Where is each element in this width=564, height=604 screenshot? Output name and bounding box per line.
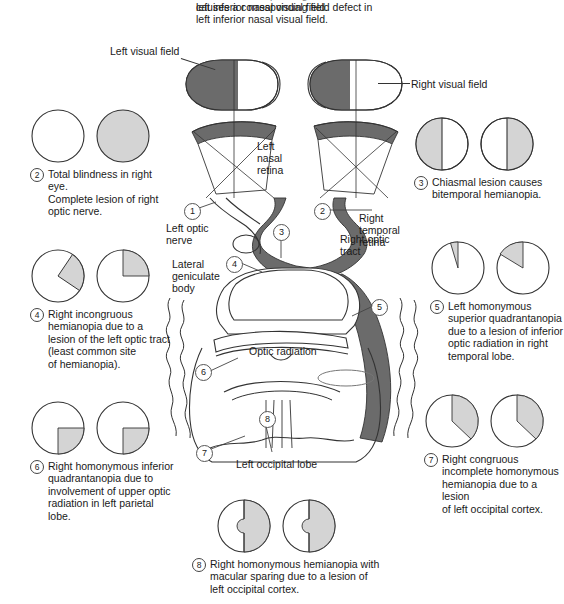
defect-2-line-0: Total blindness in right eye. [48,168,152,192]
defect-5-caption: 5 Left homonymous superior quadrantanopi… [430,300,564,362]
defect-4-line-3: (least common site [48,345,136,357]
defect-5-line-3: optic radiation in right [448,337,548,349]
defect-4-fields [30,248,170,304]
defect-item-3: 3 Chiasmal lesion causes bitemporal hemi… [414,116,560,201]
defect-2-line-1: Complete lesion of right [48,193,158,205]
defect-6-caption: 6 Right homonymous inferior quadrantanop… [30,460,176,522]
defect-item-5: 5 Left homonymous superior quadrantanopi… [430,240,564,362]
defect-6-left-field [30,400,86,456]
defect-6-right-field [95,400,151,456]
defect-3-number: 3 [414,176,428,190]
defect-6-line-3: radiation in left parietal lobe. [48,497,154,521]
defect-item-8: 8 Right homonymous hemianopia with macul… [192,498,442,595]
defect-3-fields [414,116,560,172]
defect-item-2: 2 Total blindness in right eye. Complete… [30,108,162,218]
defect-8-right-field [281,498,337,554]
defect-4-line-0: Right incongruous [48,308,133,320]
defect-7-line-0: Right congruous [442,453,518,465]
defect-5-text: Left homonymous superior quadrantanopia … [448,300,564,362]
defect-3-right-field [479,116,535,172]
defect-6-line-1: quadrantanopia due to [48,472,153,484]
defect-4-number: 4 [30,308,44,322]
defect-7-fields [424,393,564,449]
defect-4-line-4: of hemianopia). [48,358,120,370]
defect-8-number: 8 [192,558,206,572]
defect-8-line-0: Right homonymous hemianopia with [210,558,379,570]
defect-item-4: 4 Right incongruous hemianopia due to a … [30,248,170,370]
defect-item-7: 7 Right congruous incomplete homonymous … [424,393,564,515]
defect-5-line-1: superior quadrantanopia [448,312,562,324]
defect-6-text: Right homonymous inferior quadrantanopia… [48,460,176,522]
defect-4-text: Right incongruous hemianopia due to a le… [48,308,170,370]
defect-2-text: Total blindness in right eye. Complete l… [48,168,162,218]
defect-7-number: 7 [424,453,438,467]
defect-5-number: 5 [430,300,444,314]
defect-3-caption: 3 Chiasmal lesion causes bitemporal hemi… [414,176,560,201]
defect-8-left-field [216,498,272,554]
diagram-marker-3[interactable]: 3 [273,224,290,241]
diagram-marker-2[interactable]: 2 [314,203,331,220]
defect-7-left-field [424,393,480,449]
defect-2-right-field [95,108,151,164]
defect-7-line-2: hemianopia due to a lesion [442,478,537,502]
defect-2-left-field [30,108,86,164]
defect-4-line-2: lesion of the left optic tract [48,333,170,345]
defect-8-line-1: macular sparing due to a lesion of [210,570,368,582]
defect-item-6: 6 Right homonymous inferior quadrantanop… [30,400,176,522]
diagram-marker-1[interactable]: 1 [184,203,201,220]
defect-7-right-field [489,393,545,449]
defect-6-number: 6 [30,460,44,474]
diagram-marker-6[interactable]: 6 [195,364,212,381]
defect-3-line-0: Chiasmal lesion causes [432,176,542,188]
defect-5-line-0: Left homonymous [448,300,531,312]
defect-3-left-field [414,116,470,172]
defect-8-caption: 8 Right homonymous hemianopia with macul… [192,558,442,595]
defect-5-line-4: temporal lobe. [448,350,515,362]
defect-5-line-2: due to a lesion of inferior [448,325,563,337]
defect-5-right-field [495,240,551,296]
defect-4-left-field [30,248,86,304]
defect-7-line-3: of left occipital cortex. [442,503,543,515]
defect-3-text: Chiasmal lesion causes bitemporal hemian… [432,176,560,201]
diagram-marker-8[interactable]: 8 [259,411,276,428]
defect-4-line-1: hemianopia due to a [48,320,143,332]
defect-5-left-field [430,240,486,296]
defect-2-number: 2 [30,168,44,182]
defect-6-fields [30,400,176,456]
diagram-marker-4[interactable]: 4 [226,256,243,273]
defect-2-line-2: optic nerve. [48,205,102,217]
defect-8-fields [216,498,442,554]
defect-6-line-2: involvement of upper optic [48,485,171,497]
diagram-marker-5[interactable]: 5 [371,299,388,316]
defect-8-line-2: left occipital cortex. [210,583,299,595]
defect-7-caption: 7 Right congruous incomplete homonymous … [424,453,564,515]
defect-8-text: Right homonymous hemianopia with macular… [210,558,442,595]
defect-3-line-1: bitemporal hemianopia. [432,188,541,200]
defect-7-line-1: incomplete homonymous [442,465,559,477]
defect-4-right-field [95,248,151,304]
defect-5-fields [430,240,564,296]
defect-2-caption: 2 Total blindness in right eye. Complete… [30,168,162,218]
defect-4-caption: 4 Right incongruous hemianopia due to a … [30,308,170,370]
diagram-marker-7[interactable]: 7 [196,445,213,462]
defect-6-line-0: Right homonymous inferior [48,460,173,472]
defect-7-text: Right congruous incomplete homonymous he… [442,453,564,515]
defect-2-fields [30,108,162,164]
